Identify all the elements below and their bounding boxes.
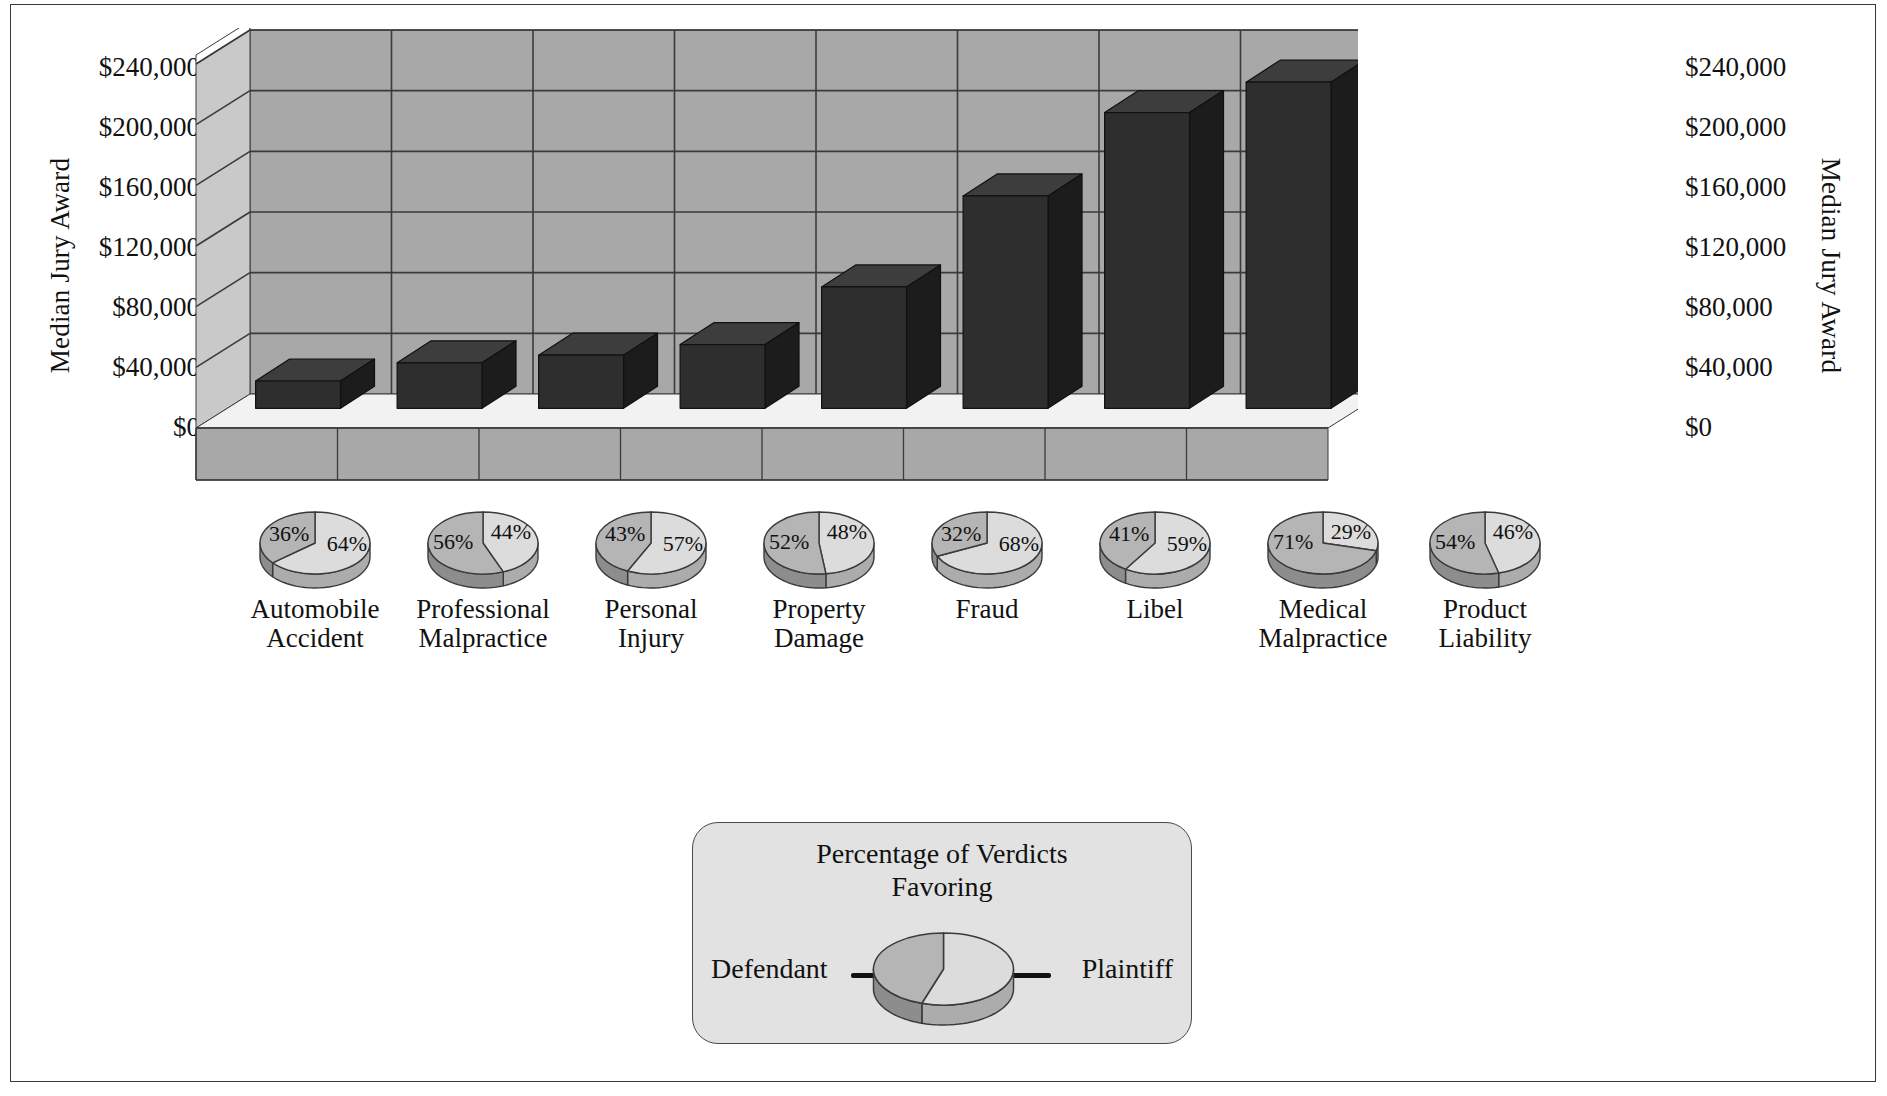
y-tick-right-80000: $80,000	[1685, 292, 1773, 323]
pie-category-label: PersonalInjury	[566, 595, 736, 652]
pie-chart-row: 36%64%AutomobileAccident56%44%Profession…	[178, 505, 1518, 705]
pie-cell-medical-malpractice: 71%29%MedicalMalpractice	[1238, 505, 1408, 652]
pie-graphic: 56%44%	[423, 505, 543, 591]
pie-category-label: ProfessionalMalpractice	[398, 595, 568, 652]
pie-defendant-percent: 71%	[1273, 529, 1313, 555]
pie-category-label: Libel	[1070, 595, 1240, 624]
legend-pie	[866, 927, 1021, 1027]
pie-plaintiff-percent: 59%	[1167, 531, 1207, 557]
pie-cell-product-liability: 54%46%ProductLiability	[1400, 505, 1570, 652]
legend-defendant-label: Defendant	[711, 953, 828, 985]
legend-title: Percentage of Verdicts Favoring	[693, 837, 1191, 903]
pie-graphic: 54%46%	[1425, 505, 1545, 591]
y-tick-right-200000: $200,000	[1685, 112, 1786, 143]
pie-defendant-percent: 52%	[769, 529, 809, 555]
y-tick-right-240000: $240,000	[1685, 52, 1786, 83]
pie-cell-professional-malpractice: 56%44%ProfessionalMalpractice	[398, 505, 568, 652]
bar-chart-3d-plot	[178, 28, 1358, 498]
pie-category-line2: Malpractice	[398, 624, 568, 653]
bar-chart-svg	[178, 28, 1358, 498]
pie-plaintiff-percent: 64%	[327, 531, 367, 557]
pie-category-label: AutomobileAccident	[230, 595, 400, 652]
pie-category-line2: Accident	[230, 624, 400, 653]
legend-plaintiff-label: Plaintiff	[1082, 953, 1173, 985]
y-tick-right-0: $0	[1685, 412, 1712, 443]
pie-defendant-percent: 43%	[605, 521, 645, 547]
pie-category-line1: Property	[734, 595, 904, 624]
y-axis-ticks-right: $240,000 $200,000 $160,000 $120,000 $80,…	[1660, 0, 1887, 500]
pie-graphic: 32%68%	[927, 505, 1047, 591]
y-tick-right-120000: $120,000	[1685, 232, 1786, 263]
pie-defendant-percent: 41%	[1109, 521, 1149, 547]
chart-figure: Median Jury Award Median Jury Award $240…	[0, 0, 1887, 1096]
pie-defendant-percent: 54%	[1435, 529, 1475, 555]
pie-cell-automobile-accident: 36%64%AutomobileAccident	[230, 505, 400, 652]
legend-title-line2: Favoring	[693, 870, 1191, 903]
pie-category-line2: Liability	[1400, 624, 1570, 653]
pie-category-line2: Damage	[734, 624, 904, 653]
pie-graphic: 71%29%	[1263, 505, 1383, 591]
pie-graphic: 52%48%	[759, 505, 879, 591]
pie-graphic: 36%64%	[255, 505, 375, 591]
pie-cell-libel: 41%59%Libel	[1070, 505, 1240, 624]
pie-defendant-percent: 56%	[433, 529, 473, 555]
pie-cell-property-damage: 52%48%PropertyDamage	[734, 505, 904, 652]
pie-plaintiff-percent: 48%	[827, 519, 867, 545]
pie-category-line1: Professional	[398, 595, 568, 624]
pie-cell-fraud: 32%68%Fraud	[902, 505, 1072, 624]
pie-plaintiff-percent: 46%	[1493, 519, 1533, 545]
pie-plaintiff-percent: 68%	[999, 531, 1039, 557]
legend-pie-graphic	[866, 927, 1021, 1027]
y-tick-right-160000: $160,000	[1685, 172, 1786, 203]
y-tick-right-40000: $40,000	[1685, 352, 1773, 383]
pie-graphic: 41%59%	[1095, 505, 1215, 591]
pie-defendant-percent: 32%	[941, 521, 981, 547]
pie-category-line1: Personal	[566, 595, 736, 624]
pie-category-line2: Malpractice	[1238, 624, 1408, 653]
pie-graphic: 43%57%	[591, 505, 711, 591]
legend-box: Percentage of Verdicts Favoring Defendan…	[692, 822, 1192, 1044]
pie-category-label: PropertyDamage	[734, 595, 904, 652]
pie-category-line1: Product	[1400, 595, 1570, 624]
pie-plaintiff-percent: 57%	[663, 531, 703, 557]
pie-category-label: Fraud	[902, 595, 1072, 624]
pie-category-line1: Fraud	[902, 595, 1072, 624]
pie-category-line1: Libel	[1070, 595, 1240, 624]
pie-plaintiff-percent: 29%	[1331, 519, 1371, 545]
pie-category-line1: Automobile	[230, 595, 400, 624]
legend-title-line1: Percentage of Verdicts	[693, 837, 1191, 870]
pie-cell-personal-injury: 43%57%PersonalInjury	[566, 505, 736, 652]
pie-category-label: ProductLiability	[1400, 595, 1570, 652]
pie-category-label: MedicalMalpractice	[1238, 595, 1408, 652]
pie-plaintiff-percent: 44%	[491, 519, 531, 545]
pie-category-line1: Medical	[1238, 595, 1408, 624]
pie-defendant-percent: 36%	[269, 521, 309, 547]
pie-category-line2: Injury	[566, 624, 736, 653]
